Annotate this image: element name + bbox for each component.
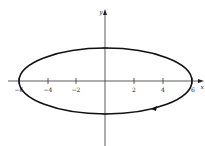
parametric-ellipse-chart: −6 −4 −2 2 4 6 y x: [0, 0, 205, 146]
x-tick-label: 4: [161, 86, 165, 93]
x-tick-label: −2: [72, 86, 81, 93]
x-tick-label: 2: [132, 86, 136, 93]
x-axis-label: x: [201, 83, 205, 90]
y-axis-label: y: [98, 8, 103, 16]
x-tick-label: −4: [44, 86, 53, 93]
y-axis-arrow-icon: [103, 9, 107, 15]
x-tick-label: 6: [191, 86, 195, 93]
